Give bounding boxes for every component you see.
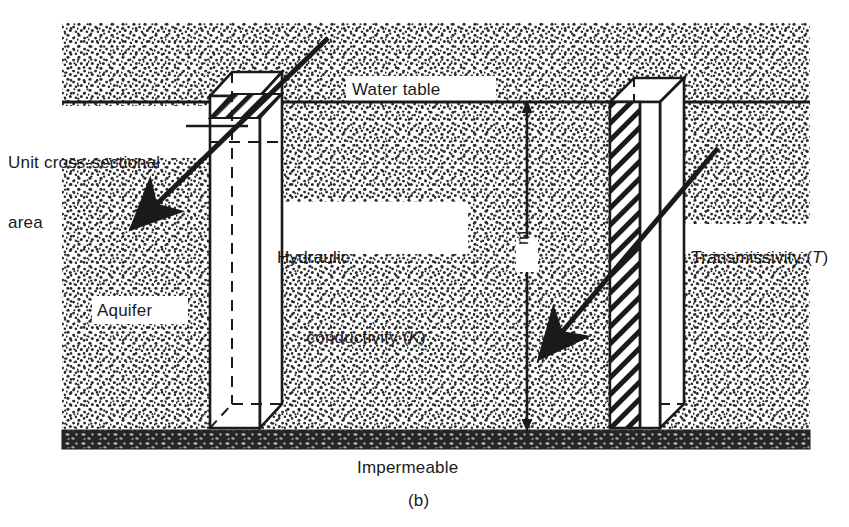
hydraulic-line-1: Hydraulic: [277, 248, 426, 268]
impermeable-layer: [62, 430, 810, 449]
transmissivity-label: Transmissivity (T): [672, 228, 828, 288]
hydraulic-text: conductivity (: [307, 328, 409, 347]
figure-caption: (b): [408, 491, 429, 511]
hydraulic-conductivity-symbol: K: [409, 328, 421, 347]
unit-cross-sectional-area-label: Unit cross-sectional area: [8, 113, 160, 273]
hydraulic-conductivity-label: Hydraulic conductivity (K): [277, 208, 426, 408]
aquifer-label: Aquifer: [97, 301, 152, 321]
transmissivity-symbol: T: [812, 248, 823, 267]
thickness-unit-label: m: [513, 231, 533, 245]
unit-area-line-2: area: [8, 213, 160, 233]
transmissivity-paren-close: ): [823, 248, 829, 267]
water-table-label: Water table: [352, 80, 441, 100]
unit-area-line-1: Unit cross-sectional: [8, 153, 160, 173]
hydrogeology-figure: Unit cross-sectional area Water table Hy…: [0, 0, 849, 527]
transmissivity-text: Transmissivity (: [691, 248, 812, 267]
hydraulic-paren-close: ): [420, 328, 426, 347]
impermeable-label: Impermeable: [357, 458, 458, 478]
hydraulic-line-2: conductivity (K): [277, 308, 426, 368]
